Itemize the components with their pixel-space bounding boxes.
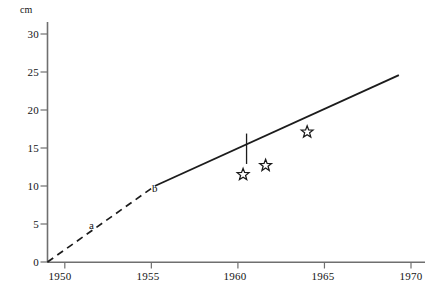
series-line-b <box>155 75 399 186</box>
data-marker-star-3 <box>301 126 313 137</box>
chart-plot-area <box>0 0 440 301</box>
y-axis-ticks <box>41 34 48 262</box>
x-tick-label-1960: 1960 <box>211 270 259 282</box>
y-tick-label-5: 5 <box>8 218 39 230</box>
data-marker-star-1 <box>237 168 249 179</box>
data-markers-group <box>237 126 313 180</box>
y-axis-unit-label: cm <box>20 4 32 15</box>
series-line-a <box>48 186 155 262</box>
x-axis-ticks <box>65 262 411 268</box>
y-tick-label-15: 15 <box>8 142 39 154</box>
series-label-b: b <box>152 182 158 194</box>
series-label-a: a <box>89 219 94 231</box>
x-tick-label-1955: 1955 <box>124 270 172 282</box>
y-tick-label-10: 10 <box>8 180 39 192</box>
x-tick-label-1965: 1965 <box>299 270 347 282</box>
x-tick-label-1970: 1970 <box>387 270 435 282</box>
y-tick-label-20: 20 <box>8 104 39 116</box>
chart-container: cm 30 25 20 15 10 5 0 1950 1955 1960 196… <box>0 0 440 301</box>
x-tick-label-1950: 1950 <box>36 270 84 282</box>
y-tick-label-30: 30 <box>8 28 39 40</box>
y-tick-label-0: 0 <box>8 256 39 268</box>
data-series-group <box>48 75 399 262</box>
axes-group <box>47 22 425 262</box>
data-marker-star-2 <box>260 159 272 170</box>
y-tick-label-25: 25 <box>8 66 39 78</box>
